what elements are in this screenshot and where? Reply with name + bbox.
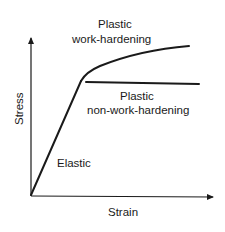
work-hardening-label-2: work-hardening [71, 33, 151, 45]
non-work-hardening-line [86, 82, 199, 84]
non-work-hardening-label-1: Plastic [120, 90, 154, 102]
work-hardening-curve [81, 46, 189, 81]
elastic-line [31, 81, 81, 195]
x-axis-label: Strain [108, 206, 138, 218]
y-axis-label: Stress [13, 92, 25, 125]
x-axis [31, 196, 213, 197]
elastic-label: Elastic [57, 157, 91, 169]
stress-strain-diagram: Plastic work-hardening Plastic non-work-… [0, 0, 225, 232]
work-hardening-label-1: Plastic [98, 18, 132, 30]
non-work-hardening-label-2: non-work-hardening [87, 104, 189, 116]
